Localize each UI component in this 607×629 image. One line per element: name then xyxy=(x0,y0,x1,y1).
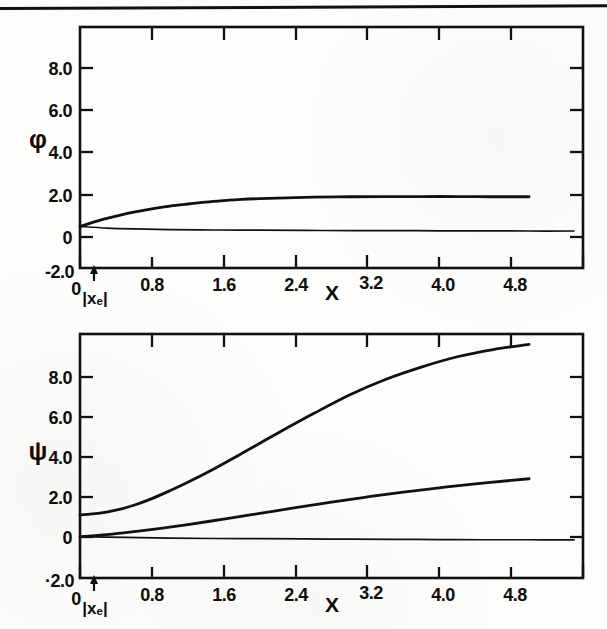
phi-yticklabel-8: 8.0 xyxy=(48,59,72,79)
phi-xticklabel-32: 3.2 xyxy=(359,273,383,293)
phi-plot-frame xyxy=(80,27,583,268)
psi-xticklabel-40: 4.0 xyxy=(431,585,455,605)
psi-xe-annotation-label: |xₑ| xyxy=(82,599,107,618)
psi-yticklabel-6: 6.0 xyxy=(48,408,72,428)
psi-axis-symbol: ψ xyxy=(29,437,48,465)
psi-upper-curve xyxy=(80,344,529,515)
scanned-figure-page: 8.0 6.0 4.0 2.0 0 -2.0 φ 0 0.8 1.6 2.4 3… xyxy=(0,0,607,629)
phi-top-ticks xyxy=(152,27,511,40)
psi-xticklabel-24: 2.4 xyxy=(284,585,308,605)
psi-yticklabel-2: 2.0 xyxy=(48,488,72,508)
phi-yticklabel-0: 0 xyxy=(62,228,72,248)
psi-x-axis-title: X xyxy=(325,593,339,616)
phi-xe-annotation-label: |xₑ| xyxy=(82,289,107,308)
phi-x-axis-title: X xyxy=(325,281,339,304)
phi-y-ticks xyxy=(80,68,93,237)
psi-xticklabel-32: 3.2 xyxy=(359,583,383,603)
psi-x-major-ticks xyxy=(80,565,583,578)
phi-yticklabel-neg2: -2.0 xyxy=(45,262,75,282)
psi-xticklabel-16: 1.6 xyxy=(212,585,236,605)
phi-upper-curve xyxy=(80,197,529,227)
psi-y-ticks-right xyxy=(570,377,583,537)
phi-yticklabel-4: 4.0 xyxy=(48,143,72,163)
phi-xticklabel-0: 0 xyxy=(71,279,81,299)
psi-yticklabel-8: 8.0 xyxy=(48,368,72,388)
phi-xticklabel-24: 2.4 xyxy=(284,275,308,295)
phi-y-ticks-right xyxy=(570,68,583,237)
phi-yticklabel-6: 6.0 xyxy=(48,101,72,121)
psi-top-ticks xyxy=(152,334,511,347)
phi-axis-symbol: φ xyxy=(29,125,47,153)
phi-chart: 8.0 6.0 4.0 2.0 0 -2.0 φ 0 0.8 1.6 2.4 3… xyxy=(0,0,607,320)
psi-xticklabel-48: 4.8 xyxy=(503,585,527,605)
phi-yticklabel-2: 2.0 xyxy=(48,186,72,206)
phi-xticklabel-08: 0.8 xyxy=(140,275,164,295)
psi-chart: 8.0 6.0 4.0 2.0 0 ·2.0 ψ 0 0.8 1.6 2.4 3… xyxy=(0,320,607,629)
psi-baseline-curve xyxy=(80,537,574,540)
phi-x-major-ticks xyxy=(80,255,583,268)
phi-xticklabel-16: 1.6 xyxy=(212,275,236,295)
psi-middle-curve xyxy=(80,479,529,537)
psi-yticklabel-neg2: ·2.0 xyxy=(45,571,75,591)
psi-yticklabel-0: 0 xyxy=(62,528,72,548)
psi-xticklabel-0: 0 xyxy=(71,589,81,609)
psi-yticklabel-4: 4.0 xyxy=(48,448,72,468)
psi-xticklabel-08: 0.8 xyxy=(140,585,164,605)
psi-plot-frame xyxy=(80,334,583,578)
phi-lower-curve xyxy=(80,226,574,231)
phi-xticklabel-40: 4.0 xyxy=(431,275,455,295)
phi-xticklabel-48: 4.8 xyxy=(503,275,527,295)
